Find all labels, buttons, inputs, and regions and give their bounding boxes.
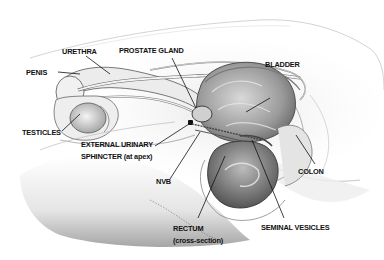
label-seminal-vesicles: SEMINAL VESICLES xyxy=(261,222,329,233)
label-penis: PENIS xyxy=(26,67,47,78)
label-testicles: TESTICLES xyxy=(22,127,61,138)
label-rectum-subtitle: (cross-section) xyxy=(173,235,223,246)
label-nvb: NVB xyxy=(156,176,171,187)
label-external-sphincter-line1: EXTERNAL URINARY xyxy=(81,139,153,150)
prostate xyxy=(192,106,212,122)
rectum-shape xyxy=(208,141,278,208)
label-prostate-gland: PROSTATE GLAND xyxy=(119,45,184,56)
label-urethra: URETHRA xyxy=(62,46,97,57)
label-rectum: RECTUM xyxy=(173,223,203,234)
label-bladder: BLADDER xyxy=(265,59,300,70)
label-colon: COLON xyxy=(298,166,324,177)
label-external-sphincter-line2: SPHINCTER (at apex) xyxy=(81,151,152,162)
anatomy-figure: URETHRA PROSTATE GLAND PENIS BLADDER TES… xyxy=(0,0,384,260)
